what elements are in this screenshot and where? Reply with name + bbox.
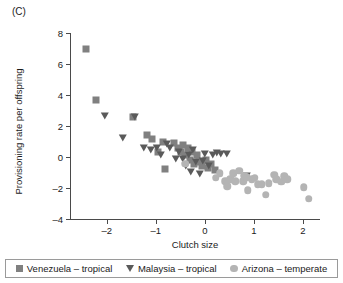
legend-marker-icon xyxy=(16,265,23,272)
y-tick-label: 8 xyxy=(58,29,63,38)
data-point xyxy=(187,168,195,175)
legend-label: Venezuela – tropical xyxy=(27,263,113,274)
x-tick xyxy=(254,219,255,224)
legend-item: Venezuela – tropical xyxy=(16,263,113,274)
y-tick-label: 6 xyxy=(58,60,63,69)
legend-item: Arizona – temperate xyxy=(230,263,327,274)
legend-marker-icon xyxy=(126,265,134,272)
legend-label: Arizona – temperate xyxy=(242,263,328,274)
y-tick-label: 0 xyxy=(58,153,63,162)
data-point xyxy=(189,147,197,154)
data-point xyxy=(224,183,232,191)
data-point xyxy=(161,165,168,172)
data-point xyxy=(300,183,308,191)
panel-label: (C) xyxy=(12,6,26,17)
data-point xyxy=(201,150,209,157)
y-tick xyxy=(66,33,70,34)
data-point xyxy=(82,45,89,52)
data-point xyxy=(196,171,204,178)
y-axis-line xyxy=(70,33,71,219)
x-axis-label: Clutch size xyxy=(70,239,320,250)
scatter-plot-area: –4–202468 –2–1012 Provisioning rate per … xyxy=(70,33,320,219)
y-tick xyxy=(66,95,70,96)
data-point xyxy=(244,187,252,195)
data-point xyxy=(93,96,100,103)
y-tick xyxy=(66,64,70,65)
data-point xyxy=(283,176,291,184)
y-tick-label: 2 xyxy=(58,122,63,131)
chart-legend: Venezuela – tropicalMalaysia – tropicalA… xyxy=(5,259,338,278)
data-point xyxy=(131,113,139,120)
data-point xyxy=(148,136,155,143)
data-point xyxy=(216,170,224,178)
data-point xyxy=(156,152,164,159)
data-point xyxy=(305,195,313,203)
y-axis-label: Provisioning rate per offspring xyxy=(13,52,24,212)
x-tick-label: 1 xyxy=(251,226,256,236)
data-point xyxy=(153,144,161,151)
x-tick xyxy=(303,219,304,224)
data-point xyxy=(101,112,109,119)
data-point xyxy=(205,163,213,170)
x-tick xyxy=(107,219,108,224)
y-tick xyxy=(66,126,70,127)
y-tick-label: –2 xyxy=(52,184,63,193)
data-point xyxy=(265,180,273,188)
data-point xyxy=(119,134,127,141)
y-tick xyxy=(66,219,70,220)
data-point xyxy=(181,160,189,168)
x-tick-label: –2 xyxy=(101,226,112,236)
y-tick-label: 4 xyxy=(58,91,63,100)
data-point xyxy=(231,177,239,185)
y-tick xyxy=(66,157,70,158)
data-point xyxy=(175,148,183,155)
x-tick xyxy=(205,219,206,224)
data-point xyxy=(262,191,270,199)
data-point xyxy=(165,145,173,152)
figure-panel: (C) –4–202468 –2–1012 Provisioning rate … xyxy=(0,0,343,283)
legend-label: Malaysia – tropical xyxy=(138,263,217,274)
y-tick xyxy=(66,188,70,189)
x-tick-label: –1 xyxy=(150,226,161,236)
x-tick-label: 2 xyxy=(300,226,305,236)
x-tick xyxy=(156,219,157,224)
y-tick-label: –4 xyxy=(52,215,63,224)
data-point xyxy=(223,150,231,157)
x-tick-label: 0 xyxy=(202,226,207,236)
legend-item: Malaysia – tropical xyxy=(126,263,217,274)
legend-marker-icon xyxy=(230,265,238,273)
